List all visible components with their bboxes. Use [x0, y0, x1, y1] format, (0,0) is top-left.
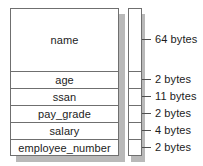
field-row: salary [11, 123, 118, 140]
record-layout-diagram: name age ssan pay_grade salary employee_… [0, 0, 203, 166]
leader-line-icon [142, 79, 151, 80]
size-label-ssan: 11 bytes [155, 91, 197, 102]
field-label-employee-number: employee_number [18, 143, 111, 154]
size-annotation: 64 bytes [142, 33, 197, 45]
size-annotation-list: 64 bytes 2 bytes 11 bytes 2 bytes 4 byte… [142, 8, 203, 156]
size-label-salary: 4 bytes [155, 125, 191, 136]
size-bracket-column [128, 8, 142, 156]
size-annotation: 4 bytes [142, 124, 191, 136]
record-struct-box: name age ssan pay_grade salary employee_… [10, 8, 119, 156]
bracket-cell-ssan [129, 89, 141, 106]
field-row: name [11, 9, 118, 72]
size-label-age: 2 bytes [155, 74, 191, 85]
bracket-cell-salary [129, 123, 141, 140]
field-label-age: age [55, 75, 74, 86]
field-label-pay-grade: pay_grade [38, 109, 91, 120]
leader-line-icon [142, 39, 151, 40]
size-annotation: 2 bytes [142, 141, 191, 153]
field-row: pay_grade [11, 106, 118, 123]
leader-line-icon [142, 130, 151, 131]
leader-line-icon [142, 113, 151, 114]
leader-line-icon [142, 96, 151, 97]
bracket-cell-employee-number [129, 140, 141, 157]
field-label-salary: salary [50, 126, 80, 137]
bracket-cell-age [129, 72, 141, 89]
leader-line-icon [142, 147, 151, 148]
size-label-employee-number: 2 bytes [155, 142, 191, 153]
size-label-name: 64 bytes [155, 34, 197, 45]
field-label-ssan: ssan [53, 92, 77, 103]
field-row: ssan [11, 89, 118, 106]
field-row: age [11, 72, 118, 89]
field-row: employee_number [11, 140, 118, 157]
bracket-cell-pay-grade [129, 106, 141, 123]
field-label-name: name [51, 35, 79, 46]
size-annotation: 11 bytes [142, 90, 197, 102]
bracket-cell-name [129, 9, 141, 72]
size-label-pay-grade: 2 bytes [155, 108, 191, 119]
size-annotation: 2 bytes [142, 73, 191, 85]
size-annotation: 2 bytes [142, 107, 191, 119]
